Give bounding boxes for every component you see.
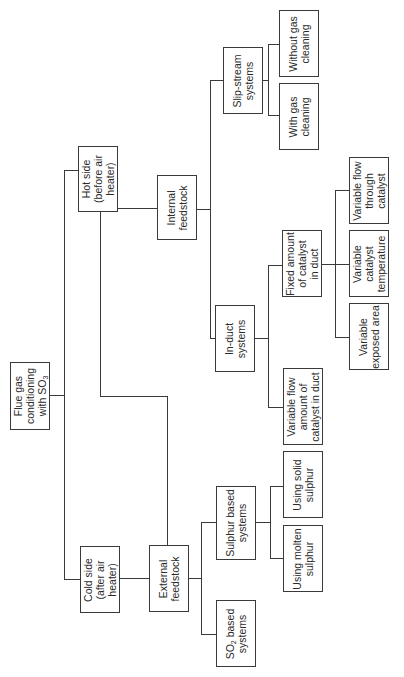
connector <box>64 170 78 171</box>
node-label: In-duct systems <box>223 319 247 358</box>
node-root: Flue gas conditioning with SO3 <box>10 362 50 430</box>
connector <box>120 578 149 579</box>
connector <box>189 578 201 579</box>
connector <box>268 265 282 266</box>
flowchart-diagram: Flue gas conditioning with SO3 Hot side … <box>0 0 404 677</box>
node-label: Using molten sulphur <box>291 528 315 589</box>
node-in-duct: In-duct systems <box>215 305 255 372</box>
node-label: External feedstock <box>157 556 181 601</box>
connector <box>201 634 216 635</box>
node-label: Fixed amount of catalyst in duct <box>284 232 320 296</box>
node-slip-stream: Slip-stream systems <box>223 47 263 114</box>
connector <box>268 407 283 408</box>
node-internal-feedstock: Internal feedstock <box>157 175 197 240</box>
connector <box>118 208 157 209</box>
node-label: Variable flow amount of catalyst in duct <box>285 372 321 441</box>
connector <box>210 80 223 81</box>
node-label: Variable exposed area <box>357 305 381 369</box>
connector <box>100 212 101 397</box>
connector <box>270 486 271 559</box>
connector <box>210 80 211 339</box>
node-cold-side: Cold side (after air heater) <box>80 546 120 613</box>
node-label: Variable catalyst temperature <box>351 235 387 292</box>
node-label: Cold side (after air heater) <box>82 558 118 602</box>
node-label: Using solid sulphur <box>291 459 315 510</box>
connector <box>335 337 349 338</box>
node-label: Variable flow through catalyst <box>351 161 387 220</box>
connector <box>256 522 270 523</box>
connector <box>268 115 279 116</box>
node-label: Without gas cleaning <box>287 16 311 71</box>
connector <box>270 558 283 559</box>
node-using-molten-sulphur: Using molten sulphur <box>283 525 323 592</box>
node-with-gas-cleaning: With gas cleaning <box>279 83 319 150</box>
connector <box>50 395 64 396</box>
node-label: Flue gas conditioning with SO3 <box>12 368 48 424</box>
connector <box>64 170 65 580</box>
node-label: Sulphur based systems <box>224 489 248 557</box>
node-label: Hot side (before air heater) <box>80 155 116 203</box>
node-fixed-amount: Fixed amount of catalyst in duct <box>282 230 322 297</box>
connector <box>201 522 216 523</box>
node-label: With gas cleaning <box>287 96 311 137</box>
node-label: Internal feedstock <box>165 185 189 230</box>
node-external-feedstock: External feedstock <box>149 545 189 612</box>
node-without-gas-cleaning: Without gas cleaning <box>279 10 319 77</box>
connector <box>100 396 167 397</box>
connector <box>268 44 269 116</box>
node-hot-side: Hot side (before air heater) <box>78 146 118 212</box>
node-variable-flow-amount: Variable flow amount of catalyst in duct <box>283 368 323 445</box>
connector <box>64 579 80 580</box>
connector <box>201 522 202 635</box>
node-variable-catalyst-temperature: Variable catalyst temperature <box>349 230 389 297</box>
node-label: SO2 based systems <box>224 608 248 659</box>
connector <box>255 338 268 339</box>
node-sulphur-based: Sulphur based systems <box>216 486 256 560</box>
connector <box>197 209 210 210</box>
node-using-solid-sulphur: Using solid sulphur <box>283 451 323 518</box>
node-variable-exposed-area: Variable exposed area <box>349 303 389 370</box>
connector <box>335 190 349 191</box>
node-variable-flow-through: Variable flow through catalyst <box>349 157 389 224</box>
connector <box>268 265 269 408</box>
node-so2-based: SO2 based systems <box>216 600 256 667</box>
connector <box>270 486 283 487</box>
connector <box>167 396 168 545</box>
node-label: Slip-stream systems <box>231 54 255 107</box>
connector <box>335 190 336 338</box>
connector <box>268 44 279 45</box>
